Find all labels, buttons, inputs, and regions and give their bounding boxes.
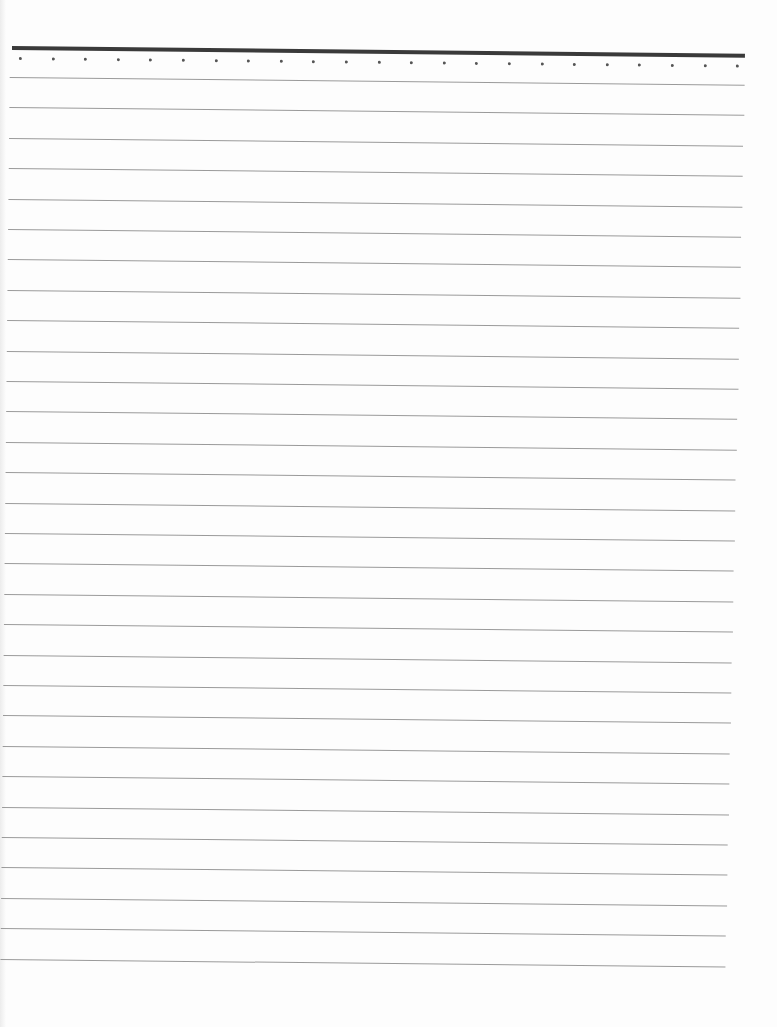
dot-marker (51, 57, 54, 60)
ruled-line (3, 715, 731, 724)
ruled-line (1, 898, 727, 907)
ruled-lines (1, 0, 777, 8)
top-header-rule (12, 46, 745, 58)
ruled-line (6, 411, 737, 420)
ruled-line (1, 928, 726, 937)
ruled-line (6, 442, 737, 451)
dot-marker (182, 59, 185, 62)
ruled-line (8, 229, 741, 238)
ruled-line (3, 685, 731, 694)
ruled-line (8, 199, 742, 208)
dot-marker (117, 58, 120, 61)
ruled-line (8, 259, 741, 268)
lined-paper-sheet (0, 0, 777, 1027)
dot-marker (19, 57, 22, 60)
dot-marker (475, 62, 478, 65)
dot-marker (703, 64, 706, 67)
dot-marker (345, 61, 348, 64)
ruled-line (2, 837, 728, 846)
dot-marker (443, 62, 446, 65)
ruled-line (2, 807, 729, 816)
dot-marker (671, 64, 674, 67)
ruled-line (5, 533, 735, 542)
ruled-line (7, 381, 738, 390)
ruled-line (4, 655, 732, 664)
ruled-line (5, 563, 734, 572)
dot-marker (377, 61, 380, 64)
ruled-line (0, 959, 725, 968)
dot-marker (736, 65, 739, 68)
ruled-line (9, 107, 744, 116)
ruled-line (7, 290, 740, 299)
ruled-line (2, 776, 729, 785)
ruled-line (9, 138, 743, 147)
ruled-line (1, 867, 727, 876)
dot-marker (410, 61, 413, 64)
ruled-line (3, 746, 730, 755)
dot-marker (540, 63, 543, 66)
dot-marker (149, 58, 152, 61)
ruled-line (9, 168, 743, 177)
dot-marker (280, 60, 283, 63)
ruled-line (4, 624, 733, 633)
ruled-line (6, 472, 736, 481)
dot-marker (573, 63, 576, 66)
dot-marker (606, 63, 609, 66)
ruled-line (10, 77, 745, 86)
dot-marker (247, 59, 250, 62)
dot-marker (638, 64, 641, 67)
ruled-line (7, 351, 739, 360)
dot-marker (508, 62, 511, 65)
ruled-line (7, 320, 739, 329)
dot-marker (84, 58, 87, 61)
dot-row (1, 0, 777, 8)
dot-marker (214, 59, 217, 62)
ruled-line (4, 594, 733, 603)
ruled-line (5, 503, 735, 512)
dot-marker (312, 60, 315, 63)
